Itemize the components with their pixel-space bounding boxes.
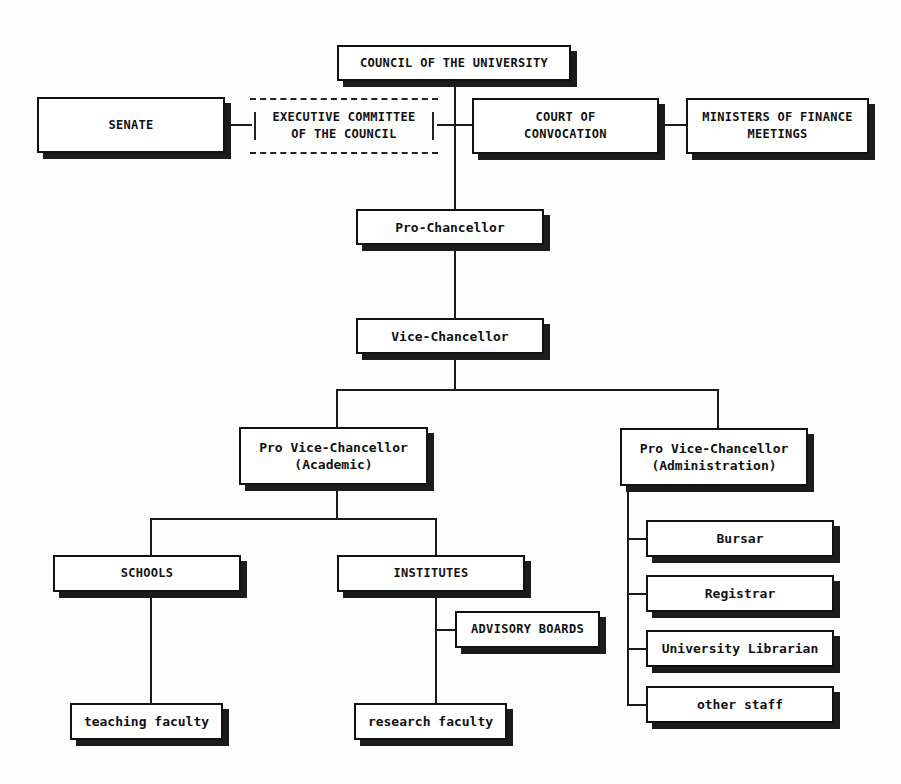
connector-trunk-court <box>455 124 472 126</box>
connector-pvc-branch <box>336 389 719 391</box>
connector-institutes-research <box>435 592 437 703</box>
node-bursar: Bursar <box>646 520 834 557</box>
node-executive-committee: EXECUTIVE COMMITTEE OF THE COUNCIL <box>250 98 438 154</box>
connector-to-pvc-academic <box>336 389 338 427</box>
node-vice-chancellor: Vice-Chancellor <box>356 318 544 354</box>
connector-academic-down <box>336 485 338 520</box>
node-teaching-faculty: teaching faculty <box>70 703 223 740</box>
node-court-of-convocation: COURT OF CONVOCATION <box>472 98 659 154</box>
connector-academic-branch <box>150 518 437 520</box>
node-pvc-administration: Pro Vice-Chancellor (Administration) <box>620 428 808 486</box>
node-other-staff: other staff <box>646 686 834 723</box>
node-pvc-academic: Pro Vice-Chancellor (Academic) <box>239 427 428 485</box>
connector-court-ministers <box>664 124 686 126</box>
connector-admin-spine <box>627 486 629 706</box>
connector-council-trunk <box>454 80 456 218</box>
connector-schools-teaching <box>150 592 152 703</box>
node-ministers-of-finance: MINISTERS OF FINANCE MEETINGS <box>686 98 869 154</box>
node-schools: SCHOOLS <box>53 555 241 592</box>
node-council: COUNCIL OF THE UNIVERSITY <box>337 45 571 81</box>
connector-vice-down <box>454 353 456 391</box>
connector-institutes-advisory <box>435 629 455 631</box>
connector-to-schools <box>150 518 152 555</box>
connector-to-other-staff <box>627 704 646 706</box>
node-registrar: Registrar <box>646 575 834 612</box>
connector-to-pvc-admin <box>717 389 719 428</box>
node-research-faculty: research faculty <box>354 703 507 740</box>
node-pro-chancellor: Pro-Chancellor <box>356 209 544 245</box>
node-university-librarian: University Librarian <box>646 630 834 667</box>
node-advisory-boards: ADVISORY BOARDS <box>455 611 600 648</box>
connector-to-bursar <box>627 538 646 540</box>
node-institutes: INSTITUTES <box>337 555 525 592</box>
connector-pro-vice <box>454 250 456 318</box>
connector-to-institutes <box>435 518 437 555</box>
connector-to-registrar <box>627 593 646 595</box>
connector-exec-trunk <box>437 124 455 126</box>
node-senate: SENATE <box>37 97 225 153</box>
connector-senate-exec <box>230 124 252 126</box>
connector-to-librarian <box>627 648 646 650</box>
